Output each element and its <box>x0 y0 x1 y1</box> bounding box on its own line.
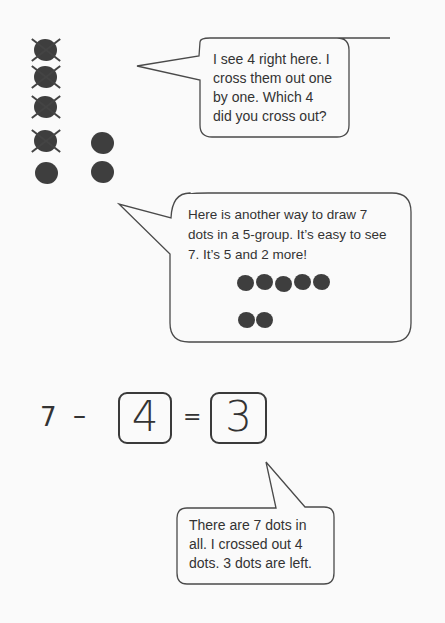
bubble-3-line: dots. 3 dots are left. <box>189 554 312 573</box>
equation-equals-sign: = <box>183 404 201 429</box>
equation-difference: 3 <box>225 392 252 441</box>
five-group-dot <box>275 276 292 292</box>
dot-crossed-1 <box>34 39 57 61</box>
dot-7 <box>91 161 114 183</box>
dot-crossed-2 <box>34 66 57 88</box>
two-more-dot <box>256 312 273 328</box>
speech-bubble-2-text: Here is another way to draw 7 dots in a … <box>188 205 387 265</box>
five-group-dot <box>294 274 311 290</box>
dot-crossed-4 <box>34 130 57 152</box>
subtrahend-box: 4 <box>118 392 172 444</box>
bubble-3-line: all. I crossed out 4 <box>189 535 312 554</box>
dot-6 <box>91 132 114 154</box>
dot-5 <box>35 162 58 184</box>
five-group-dot <box>237 275 254 291</box>
speech-bubble-3-text: There are 7 dots in all. I crossed out 4… <box>189 516 312 573</box>
five-group-dot <box>256 274 273 290</box>
bubble-3-line: There are 7 dots in <box>189 516 312 535</box>
bubble-1-line: did you cross out? <box>213 107 332 126</box>
bubble-2-line: 7. It’s 5 and 2 more! <box>188 245 387 265</box>
bubble-2-line: Here is another way to draw 7 <box>188 205 387 225</box>
equation-minuend: 7 <box>40 402 57 432</box>
bubble-1-line: cross them out one <box>213 69 332 88</box>
five-group-dot <box>313 274 330 290</box>
two-more-dot <box>238 312 255 328</box>
crossed-dots-panel <box>0 0 140 200</box>
dot-crossed-3 <box>34 96 57 118</box>
speech-bubble-1-text: I see 4 right here. I cross them out one… <box>213 50 332 126</box>
equation-subtrahend: 4 <box>132 392 159 441</box>
difference-box: 3 <box>210 392 267 444</box>
bubble-2-line: dots in a 5-group. It’s easy to see <box>188 225 387 245</box>
equation-minus-sign: – <box>73 400 86 430</box>
bubble-1-line: I see 4 right here. I <box>213 50 332 69</box>
bubble-1-line: by one. Which 4 <box>213 88 332 107</box>
